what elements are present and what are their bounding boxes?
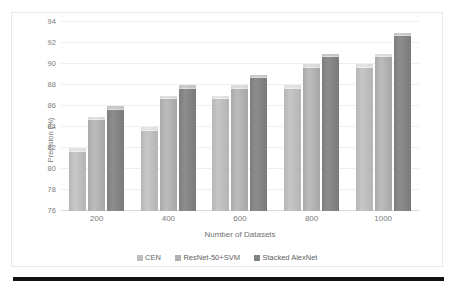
bar-highlight <box>160 96 177 100</box>
bar-resnet-50-svm-200[interactable] <box>88 117 105 212</box>
y-tick-label-84: 84 <box>47 122 56 131</box>
bar-resnet-50-svm-800[interactable] <box>303 64 320 211</box>
y-tick-label-90: 90 <box>47 59 56 68</box>
bar-highlight <box>179 85 196 89</box>
bar-stacked-alexnet-1000[interactable] <box>394 33 411 212</box>
plot-area: 76788082848688909294 <box>61 22 419 211</box>
legend-swatch-icon <box>137 255 143 261</box>
legend-swatch-icon <box>254 255 260 261</box>
legend-label: Stacked AlexNet <box>262 253 317 262</box>
bar-stacked-alexnet-400[interactable] <box>179 85 196 211</box>
bar-highlight <box>303 64 320 68</box>
bars-layer <box>61 22 419 211</box>
bar-cen-600[interactable] <box>212 96 229 212</box>
y-tick-label-94: 94 <box>47 17 56 26</box>
bar-highlight <box>284 85 301 89</box>
y-tick-label-80: 80 <box>47 164 56 173</box>
bar-group-400 <box>133 22 205 211</box>
y-tick-label-82: 82 <box>47 143 56 152</box>
x-tick-label-600: 600 <box>204 214 276 223</box>
x-tick-label-1000: 1000 <box>347 214 419 223</box>
bar-highlight <box>88 117 105 121</box>
x-axis-tick-labels: 2004006008001000 <box>61 214 419 223</box>
bar-stacked-alexnet-600[interactable] <box>250 75 267 212</box>
bar-cen-800[interactable] <box>284 85 301 211</box>
bar-cen-400[interactable] <box>141 127 158 211</box>
y-tick-label-92: 92 <box>47 38 56 47</box>
chart-figure: Precision (%) 76788082848688909294 20040… <box>11 12 443 267</box>
legend-item-stacked-alexnet[interactable]: Stacked AlexNet <box>254 253 318 262</box>
bar-highlight <box>356 64 373 68</box>
bar-cen-1000[interactable] <box>356 64 373 211</box>
legend-item-resnet-50-svm[interactable]: ResNet-50+SVM <box>175 253 240 262</box>
legend-item-cen[interactable]: CEN <box>137 253 161 262</box>
bar-highlight <box>69 148 86 152</box>
chart-legend: CENResNet-50+SVMStacked AlexNet <box>12 253 442 262</box>
bar-stacked-alexnet-200[interactable] <box>107 106 124 211</box>
x-tick-label-400: 400 <box>133 214 205 223</box>
bar-resnet-50-svm-1000[interactable] <box>375 54 392 212</box>
bar-highlight <box>212 96 229 100</box>
legend-label: CEN <box>145 253 161 262</box>
bar-group-600 <box>204 22 276 211</box>
y-tick-label-86: 86 <box>47 101 56 110</box>
y-tick-label-88: 88 <box>47 80 56 89</box>
bar-highlight <box>375 54 392 58</box>
bar-stacked-alexnet-800[interactable] <box>322 54 339 212</box>
x-axis-title: Number of Datasets <box>61 230 419 239</box>
bar-resnet-50-svm-400[interactable] <box>160 96 177 212</box>
bar-group-800 <box>276 22 348 211</box>
bottom-rule <box>13 277 444 281</box>
x-tick-label-800: 800 <box>276 214 348 223</box>
y-tick-label-78: 78 <box>47 185 56 194</box>
y-tick-label-76: 76 <box>47 206 56 215</box>
bar-highlight <box>394 33 411 37</box>
bar-highlight <box>322 54 339 58</box>
bar-group-1000 <box>347 22 419 211</box>
bar-highlight <box>231 85 248 89</box>
bar-cen-200[interactable] <box>69 148 86 211</box>
x-tick-label-200: 200 <box>61 214 133 223</box>
legend-swatch-icon <box>175 255 181 261</box>
bar-resnet-50-svm-600[interactable] <box>231 85 248 211</box>
legend-label: ResNet-50+SVM <box>183 253 239 262</box>
bar-highlight <box>107 106 124 110</box>
bar-highlight <box>141 127 158 131</box>
bar-group-200 <box>61 22 133 211</box>
bar-highlight <box>250 75 267 79</box>
